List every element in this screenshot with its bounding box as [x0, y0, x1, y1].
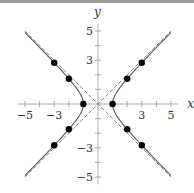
data-point [66, 76, 72, 82]
x-tick-label: −5 [17, 109, 33, 122]
x-axis-label: x [187, 97, 194, 111]
x-tick-label: −3 [46, 109, 62, 122]
data-point [51, 59, 57, 65]
y-tick-label: −3 [77, 142, 93, 155]
data-point [124, 126, 130, 132]
y-tick-label: 5 [86, 25, 93, 38]
data-point [139, 59, 145, 65]
data-point [109, 101, 115, 107]
data-point [80, 101, 86, 107]
x-tick-label: 3 [138, 109, 145, 122]
y-axis-label: y [93, 5, 101, 19]
data-point [124, 76, 130, 82]
hyperbola-plot: −5−33553−3−5xy [0, 0, 194, 193]
x-tick-label: 5 [168, 109, 175, 122]
data-point [66, 126, 72, 132]
data-point [51, 142, 57, 148]
y-tick-label: 3 [86, 54, 93, 67]
data-point [139, 142, 145, 148]
y-tick-label: −5 [77, 171, 93, 184]
